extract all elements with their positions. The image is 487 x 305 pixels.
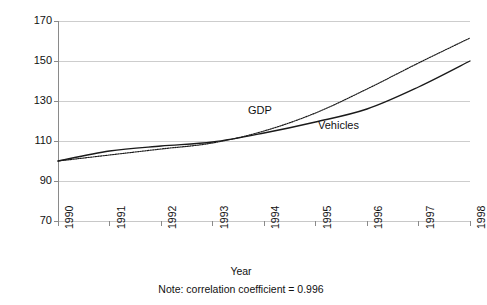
- chart-note: Note: correlation coefficient = 0.996: [0, 283, 482, 295]
- x-tick-label: 1991: [115, 206, 127, 229]
- gridlines: [58, 21, 470, 221]
- series-label-gdp: GDP: [248, 104, 272, 116]
- x-tick-label: 1996: [372, 206, 384, 229]
- y-tick-label: 150: [22, 55, 52, 66]
- y-tick-label: 170: [22, 15, 52, 26]
- x-tick-label: 1994: [269, 206, 281, 229]
- data-series: [58, 38, 470, 161]
- x-tick-label: 1993: [218, 206, 230, 229]
- axis-lines: [54, 21, 58, 221]
- y-tick-label: 90: [22, 175, 52, 186]
- x-tick-label: 1995: [321, 206, 333, 229]
- y-tick-label: 130: [22, 95, 52, 106]
- x-tick-label: 1998: [475, 206, 487, 229]
- y-tick-label: 70: [22, 215, 52, 226]
- series-label-vehicles: Vehicles: [318, 119, 359, 131]
- series-line-gdp: [58, 38, 470, 161]
- x-axis-title: Year: [0, 265, 482, 277]
- x-tick-label: 1990: [63, 206, 75, 229]
- y-tick-label: 110: [22, 135, 52, 146]
- x-tick-label: 1992: [166, 206, 178, 229]
- x-tick-label: 1997: [424, 206, 436, 229]
